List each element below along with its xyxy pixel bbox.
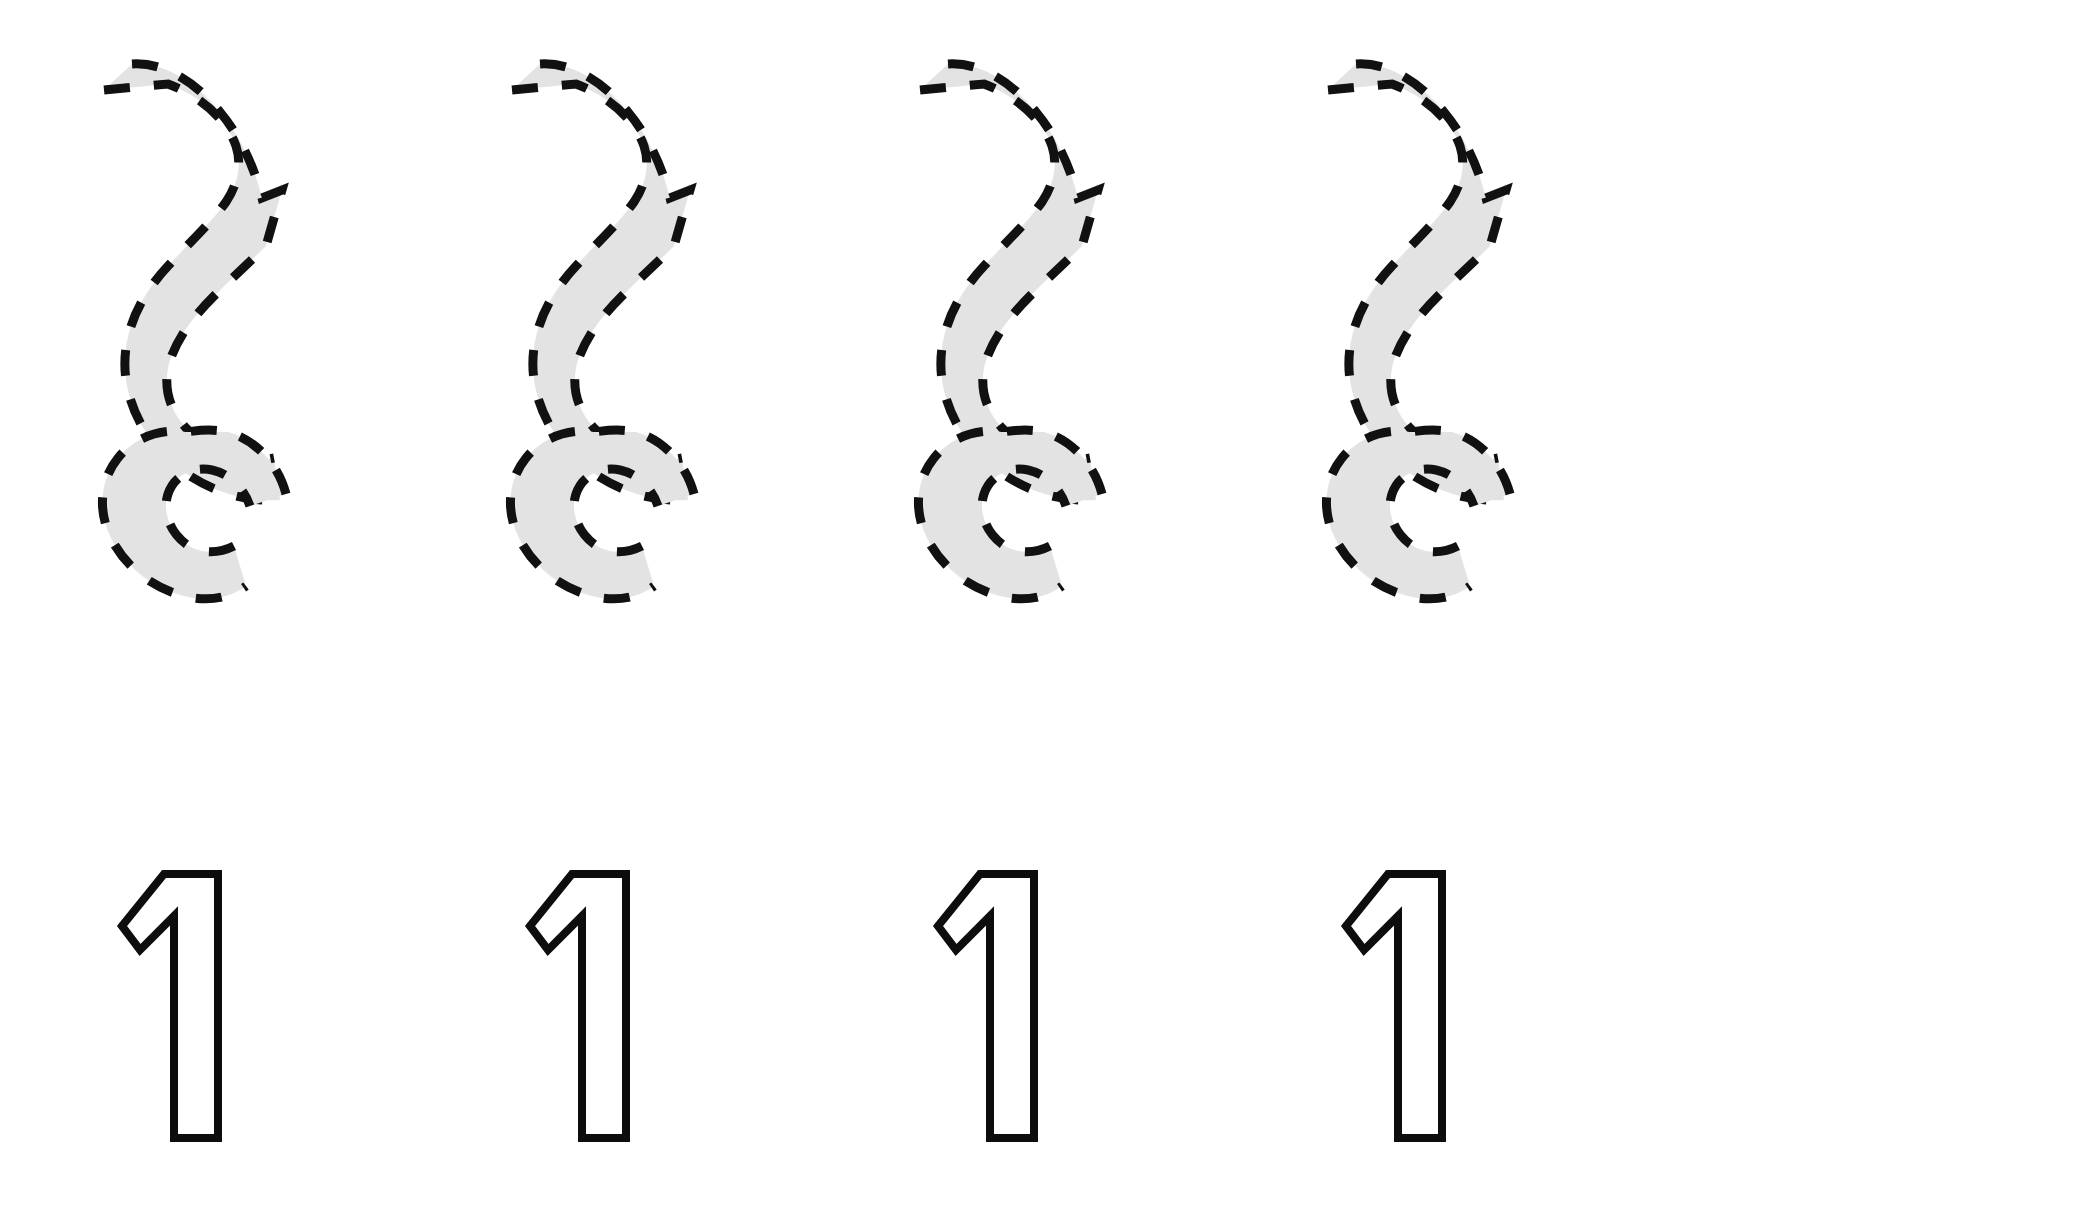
numeral-glyph-path: [1346, 874, 1442, 1138]
numeral-glyph-path: [122, 874, 218, 1138]
trace-tail-fill: [918, 431, 1102, 599]
numeral-outline-3[interactable]: [938, 874, 1034, 1138]
trace-tail-fill: [1326, 431, 1510, 599]
trace-glyph-4[interactable]: [1326, 64, 1510, 599]
trace-glyph-1[interactable]: [102, 64, 286, 599]
trace-glyph-2[interactable]: [510, 64, 694, 599]
trace-tail-fill: [102, 431, 286, 599]
numeral-row: [122, 874, 1442, 1138]
numeral-glyph-path: [530, 874, 626, 1138]
numeral-outline-4[interactable]: [1346, 874, 1442, 1138]
trace-tail-fill: [510, 431, 694, 599]
trace-glyph-tail: [1326, 430, 1510, 599]
trace-glyph-tail: [102, 430, 286, 599]
trace-glyph-tail: [918, 430, 1102, 599]
numeral-outline-1[interactable]: [122, 874, 218, 1138]
worksheet-page: [0, 0, 2081, 1225]
numeral-outline-2[interactable]: [530, 874, 626, 1138]
trace-row: [102, 64, 1510, 599]
numeral-glyph-path: [938, 874, 1034, 1138]
trace-glyph-3[interactable]: [918, 64, 1102, 599]
worksheet-canvas: [0, 0, 2081, 1225]
trace-glyph-tail: [510, 430, 694, 599]
